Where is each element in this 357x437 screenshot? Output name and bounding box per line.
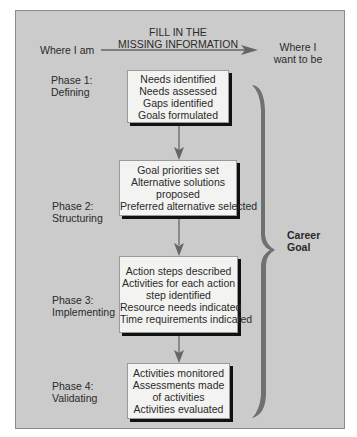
phase-2-label: Phase 2: Structuring bbox=[52, 200, 103, 224]
phase-2-item: Alternative solutions bbox=[120, 176, 236, 188]
phase-3-item: Action steps described bbox=[120, 265, 237, 277]
career-goal-label: Career Goal bbox=[287, 229, 320, 253]
arrow-phase2-to-phase3 bbox=[174, 218, 184, 256]
phase-4-item: Assessments made bbox=[128, 379, 229, 391]
career-goal-line-2: Goal bbox=[287, 241, 320, 253]
phase-1-item: Needs assessed bbox=[128, 85, 228, 97]
phase-4-number: Phase 4: bbox=[52, 380, 97, 392]
phase-1-item: Goals formulated bbox=[128, 109, 228, 121]
phase-2-box: Goal priorities set Alternative solution… bbox=[119, 160, 237, 216]
where-i-want-to-be-label: Where I want to be bbox=[268, 41, 328, 65]
phase-4-item: Activities evaluated bbox=[128, 403, 229, 415]
phase-2-item: Preferred alternative selected bbox=[120, 200, 236, 212]
curly-brace-icon bbox=[252, 85, 275, 418]
arrow-phase3-to-phase4 bbox=[174, 335, 184, 363]
phase-3-box: Action steps described Activities for ea… bbox=[119, 256, 238, 333]
phase-3-item: Time requirements indicated bbox=[120, 313, 237, 325]
fill-in-line-1: FILL IN THE bbox=[113, 26, 243, 38]
phase-1-name: Defining bbox=[51, 86, 92, 98]
phase-4-item: of activities bbox=[128, 391, 229, 403]
arrow-phase1-to-phase2 bbox=[174, 125, 184, 160]
phase-3-label: Phase 3: Implementing bbox=[52, 294, 115, 318]
phase-3-name: Implementing bbox=[52, 306, 115, 318]
fill-in-line-2: MISSING INFORMATION bbox=[113, 38, 243, 50]
phase-3-number: Phase 3: bbox=[52, 294, 115, 306]
phase-4-label: Phase 4: Validating bbox=[52, 380, 97, 404]
phase-3-item: step identified bbox=[120, 289, 237, 301]
phase-1-item: Gaps identified bbox=[128, 97, 228, 109]
fill-in-missing-info-label: FILL IN THE MISSING INFORMATION bbox=[113, 26, 243, 50]
where-i-am-label: Where I am bbox=[40, 44, 94, 56]
phase-4-name: Validating bbox=[52, 392, 97, 404]
phase-2-item: proposed bbox=[120, 188, 236, 200]
want-line-1: Where I bbox=[268, 41, 328, 53]
want-line-2: want to be bbox=[268, 53, 328, 65]
phase-4-box: Activities monitored Assessments made of… bbox=[127, 363, 230, 419]
phase-1-item: Needs identified bbox=[128, 73, 228, 85]
phase-2-number: Phase 2: bbox=[52, 200, 103, 212]
phase-1-number: Phase 1: bbox=[51, 74, 92, 86]
phase-1-label: Phase 1: Defining bbox=[51, 74, 92, 98]
phase-3-item: Resource needs indicated bbox=[120, 301, 237, 313]
career-goal-line-1: Career bbox=[287, 229, 320, 241]
phase-2-item: Goal priorities set bbox=[120, 164, 236, 176]
phase-4-item: Activities monitored bbox=[128, 367, 229, 379]
phase-1-box: Needs identified Needs assessed Gaps ide… bbox=[127, 70, 229, 123]
phase-2-name: Structuring bbox=[52, 212, 103, 224]
phase-3-item: Activities for each action bbox=[120, 277, 237, 289]
